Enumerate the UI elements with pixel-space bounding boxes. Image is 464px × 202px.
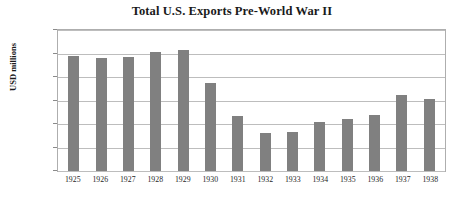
bar-1928[interactable] [150, 52, 161, 171]
bar-slot [279, 30, 306, 171]
bar-slot [306, 30, 333, 171]
bar-1930[interactable] [205, 83, 216, 171]
bar-slot [334, 30, 361, 171]
x-tick-label-1930: 1930 [197, 175, 225, 191]
bar-slot [361, 30, 388, 171]
y-tick-mark [53, 123, 57, 124]
y-tick-mark [53, 100, 57, 101]
x-tick-label-1927: 1927 [114, 175, 142, 191]
bar-1936[interactable] [369, 115, 380, 171]
y-tick-mark [53, 53, 57, 54]
bar-1937[interactable] [396, 95, 407, 171]
x-tick-label-1936: 1936 [362, 175, 390, 191]
bar-slot [87, 30, 114, 171]
y-tick-mark [53, 29, 57, 30]
bar-slot [60, 30, 87, 171]
chart-title: Total U.S. Exports Pre-World War II [0, 4, 464, 19]
x-tick-label-1926: 1926 [87, 175, 115, 191]
x-tick-label-1925: 1925 [59, 175, 87, 191]
x-axis-ticks: 1925192619271928192919301931193219331934… [57, 175, 446, 191]
y-tick-mark [53, 147, 57, 148]
y-tick-mark [53, 170, 57, 171]
bar-slot [169, 30, 196, 171]
bar-slot [142, 30, 169, 171]
x-tick-label-1937: 1937 [389, 175, 417, 191]
x-tick-label-1935: 1935 [334, 175, 362, 191]
plot-area [57, 29, 446, 172]
x-tick-label-1929: 1929 [169, 175, 197, 191]
bar-slot [115, 30, 142, 171]
x-tick-label-1928: 1928 [142, 175, 170, 191]
y-tick-mark [53, 76, 57, 77]
bar-1927[interactable] [123, 57, 134, 171]
x-tick-label-1934: 1934 [307, 175, 335, 191]
bar-slot [252, 30, 279, 171]
x-tick-label-1931: 1931 [224, 175, 252, 191]
bar-1934[interactable] [314, 122, 325, 171]
x-tick-label-1932: 1932 [252, 175, 280, 191]
bar-slot [197, 30, 224, 171]
bar-1933[interactable] [287, 132, 298, 171]
bar-1932[interactable] [260, 133, 271, 171]
bar-1926[interactable] [96, 58, 107, 171]
bar-slot [224, 30, 251, 171]
bar-slot [388, 30, 415, 171]
bar-1935[interactable] [342, 119, 353, 171]
bar-1929[interactable] [178, 50, 189, 171]
bar-chart: Total U.S. Exports Pre-World War II USD … [0, 0, 464, 202]
gridline [58, 171, 445, 172]
bar-slot [416, 30, 443, 171]
x-tick-label-1933: 1933 [279, 175, 307, 191]
bar-1925[interactable] [68, 56, 79, 171]
bar-1938[interactable] [424, 99, 435, 171]
x-tick-label-1938: 1938 [417, 175, 445, 191]
y-axis-title: USD millions [8, 24, 18, 110]
bars-layer [58, 30, 445, 171]
bar-1931[interactable] [232, 116, 243, 171]
